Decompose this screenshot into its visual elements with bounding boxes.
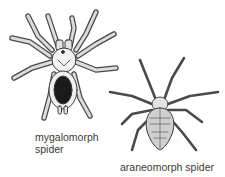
- spider-comparison-illustration: [0, 0, 225, 177]
- araneomorph-label: araneomorph spider: [120, 161, 214, 173]
- mygalomorph-label: mygalomorph spider: [35, 131, 99, 155]
- araneomorph-spider-icon: [110, 58, 218, 150]
- mygalomorph-spider-icon: [12, 12, 116, 118]
- mygalomorph-label-line2: spider: [35, 143, 99, 155]
- mygalomorph-label-line1: mygalomorph: [35, 131, 99, 143]
